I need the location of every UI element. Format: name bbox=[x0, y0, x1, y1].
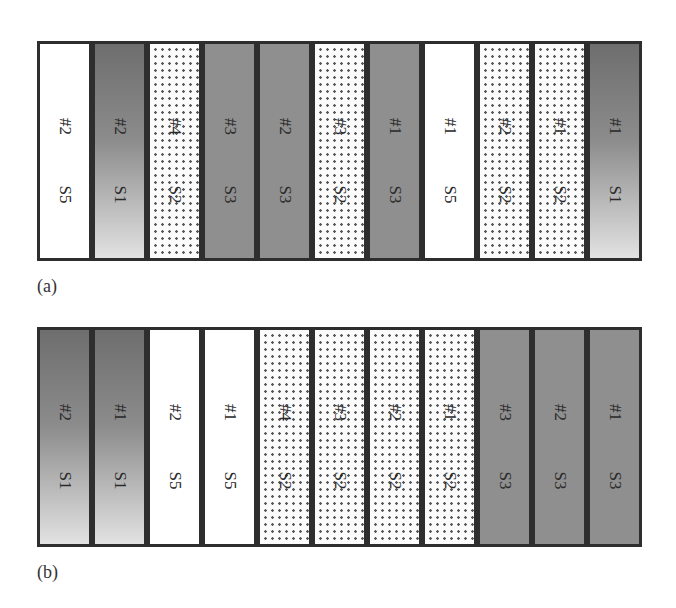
box-series: S3 bbox=[386, 186, 403, 204]
box-number: #1 bbox=[386, 118, 403, 135]
box-series: S3 bbox=[221, 186, 238, 204]
box-b-10: #2S3 bbox=[532, 327, 587, 547]
box-number: #1 bbox=[221, 404, 238, 421]
box-b-6: #3S2 bbox=[312, 327, 367, 547]
box-series: S1 bbox=[111, 186, 128, 204]
box-series: S3 bbox=[551, 472, 568, 490]
box-number: #2 bbox=[496, 118, 513, 135]
box-series: S1 bbox=[56, 472, 73, 490]
box-number: #2 bbox=[56, 118, 73, 135]
box-b-11: #1S3 bbox=[587, 327, 642, 547]
box-series: S5 bbox=[166, 472, 183, 490]
panel-a-caption: (a) bbox=[37, 276, 57, 297]
box-a-7: #1S3 bbox=[367, 41, 422, 261]
box-b-8: #1S2 bbox=[422, 327, 477, 547]
box-a-6: #3S2 bbox=[312, 41, 367, 261]
box-series: S2 bbox=[386, 472, 403, 490]
box-a-11: #1S1 bbox=[587, 41, 642, 261]
box-series: S1 bbox=[606, 186, 623, 204]
box-b-2: #1S1 bbox=[92, 327, 147, 547]
box-a-10: #1S2 bbox=[532, 41, 587, 261]
box-b-1: #2S1 bbox=[37, 327, 92, 547]
box-b-3: #2S5 bbox=[147, 327, 202, 547]
box-a-5: #2S3 bbox=[257, 41, 312, 261]
box-number: #3 bbox=[331, 118, 348, 135]
panel-b-caption: (b) bbox=[37, 562, 58, 583]
box-series: S2 bbox=[441, 472, 458, 490]
box-b-4: #1S5 bbox=[202, 327, 257, 547]
box-number: #2 bbox=[166, 404, 183, 421]
box-b-5: #4S2 bbox=[257, 327, 312, 547]
box-number: #3 bbox=[496, 404, 513, 421]
box-series: S3 bbox=[606, 472, 623, 490]
panel-b-row: #2S1 #1S1 #2S5 #1S5 #4S2 #3S2 #2S2 #1S2 … bbox=[37, 327, 642, 547]
box-number: #1 bbox=[111, 404, 128, 421]
box-series: S2 bbox=[276, 472, 293, 490]
box-series: S2 bbox=[331, 186, 348, 204]
box-b-9: #3S3 bbox=[477, 327, 532, 547]
box-series: S2 bbox=[331, 472, 348, 490]
box-b-7: #2S2 bbox=[367, 327, 422, 547]
box-series: S2 bbox=[551, 186, 568, 204]
box-a-3: #4S2 bbox=[147, 41, 202, 261]
box-number: #3 bbox=[331, 404, 348, 421]
box-number: #4 bbox=[276, 404, 293, 421]
box-number: #2 bbox=[551, 404, 568, 421]
box-series: S2 bbox=[496, 186, 513, 204]
box-number: #4 bbox=[166, 118, 183, 135]
box-a-4: #3S3 bbox=[202, 41, 257, 261]
box-series: S5 bbox=[441, 186, 458, 204]
box-number: #2 bbox=[386, 404, 403, 421]
box-number: #2 bbox=[111, 118, 128, 135]
box-series: S1 bbox=[111, 472, 128, 490]
box-number: #3 bbox=[221, 118, 238, 135]
box-a-9: #2S2 bbox=[477, 41, 532, 261]
box-number: #2 bbox=[56, 404, 73, 421]
box-series: S3 bbox=[496, 472, 513, 490]
box-series: S2 bbox=[166, 186, 183, 204]
box-a-2: #2S1 bbox=[92, 41, 147, 261]
box-number: #1 bbox=[606, 118, 623, 135]
box-series: S5 bbox=[56, 186, 73, 204]
panel-a-row: #2S5 #2S1 #4S2 #3S3 #2S3 #3S2 #1S3 #1S5 … bbox=[37, 41, 642, 261]
box-a-1: #2S5 bbox=[37, 41, 92, 261]
box-series: S5 bbox=[221, 472, 238, 490]
box-number: #1 bbox=[441, 404, 458, 421]
box-number: #2 bbox=[276, 118, 293, 135]
box-number: #1 bbox=[441, 118, 458, 135]
box-a-8: #1S5 bbox=[422, 41, 477, 261]
box-number: #1 bbox=[606, 404, 623, 421]
box-series: S3 bbox=[276, 186, 293, 204]
box-number: #1 bbox=[551, 118, 568, 135]
